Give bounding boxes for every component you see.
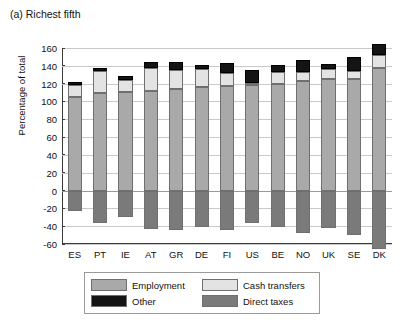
bar-segment-employment xyxy=(195,87,209,190)
legend-swatch xyxy=(202,295,238,307)
plot-area: 160140120100806040200-20-40-60 ESPTIEATG… xyxy=(62,48,392,244)
bar-segment-other xyxy=(118,76,132,80)
legend-item-direct-taxes: Direct taxes xyxy=(202,295,313,307)
bar-group-fi: FI xyxy=(220,48,234,244)
page-title: (a) Richest fifth xyxy=(10,8,81,20)
bar-segment-other xyxy=(296,60,310,72)
x-tick-label-at: AT xyxy=(145,249,156,260)
bar-group-ie: IE xyxy=(118,48,132,244)
y-tick-label: -20 xyxy=(17,203,62,214)
bar-segment-other xyxy=(245,70,259,82)
bar-segment-other xyxy=(321,64,335,69)
x-tick-label-de: DE xyxy=(195,249,208,260)
y-tick-label: 160 xyxy=(17,43,62,54)
bar-segment-direct-taxes xyxy=(271,191,285,228)
bar-segment-employment xyxy=(271,84,285,191)
bar-segment-cash-transfers xyxy=(372,55,386,67)
bar-segment-other xyxy=(68,82,82,86)
legend-label: Direct taxes xyxy=(243,296,293,307)
bar-segment-cash-transfers xyxy=(245,83,259,86)
bar-segment-employment xyxy=(118,92,132,191)
bar-group-es: ES xyxy=(68,48,82,244)
bar-segment-employment xyxy=(245,85,259,190)
legend-label: Other xyxy=(132,296,156,307)
bar-segment-direct-taxes xyxy=(372,191,386,250)
chart-legend: EmploymentCash transfersOtherDirect taxe… xyxy=(84,272,320,314)
bar-segment-direct-taxes xyxy=(144,191,158,229)
x-tick-label-pt: PT xyxy=(94,249,106,260)
bar-segment-employment xyxy=(321,79,335,190)
y-tick-label: 60 xyxy=(17,132,62,143)
bar-segment-direct-taxes xyxy=(347,191,361,236)
y-tick-label: 40 xyxy=(17,149,62,160)
y-tick-label: 80 xyxy=(17,114,62,125)
bar-segment-employment xyxy=(144,91,158,191)
bar-segment-employment xyxy=(68,97,82,191)
bar-segment-direct-taxes xyxy=(118,191,132,218)
bar-segment-cash-transfers xyxy=(195,69,209,87)
legend-label: Cash transfers xyxy=(243,280,305,291)
bar-group-gr: GR xyxy=(169,48,183,244)
bar-group-de: DE xyxy=(195,48,209,244)
bar-group-us: US xyxy=(245,48,259,244)
bar-segment-employment xyxy=(372,68,386,191)
bar-segment-cash-transfers xyxy=(321,69,335,79)
bar-segment-direct-taxes xyxy=(93,191,107,224)
bar-group-uk: UK xyxy=(321,48,335,244)
legend-item-cash-transfers: Cash transfers xyxy=(202,279,313,291)
x-tick-label-fi: FI xyxy=(223,249,231,260)
y-tick-label: 120 xyxy=(17,78,62,89)
bar-segment-other xyxy=(347,57,361,71)
bar-segment-other xyxy=(195,65,209,69)
x-tick-label-no: NO xyxy=(296,249,310,260)
x-tick-label-ie: IE xyxy=(121,249,130,260)
bar-segment-employment xyxy=(220,86,234,190)
x-tick-label-be: BE xyxy=(271,249,284,260)
bar-segment-other xyxy=(169,62,183,70)
bar-segment-other xyxy=(372,44,386,56)
bar-group-se: SE xyxy=(347,48,361,244)
bar-group-dk: DK xyxy=(372,48,386,244)
x-tick-label-gr: GR xyxy=(169,249,183,260)
legend-swatch xyxy=(91,295,127,307)
y-tick-label: -40 xyxy=(17,221,62,232)
bar-segment-employment xyxy=(296,81,310,191)
bar-segment-cash-transfers xyxy=(271,72,285,84)
bar-segment-cash-transfers xyxy=(220,73,234,86)
bar-segment-other xyxy=(144,62,158,68)
y-tick-label: 0 xyxy=(17,185,62,196)
x-tick-label-dk: DK xyxy=(373,249,386,260)
legend-swatch xyxy=(91,279,127,291)
bar-segment-direct-taxes xyxy=(245,191,259,224)
bar-segment-cash-transfers xyxy=(93,71,107,92)
legend-label: Employment xyxy=(132,280,185,291)
y-tick-label: 100 xyxy=(17,96,62,107)
legend-item-employment: Employment xyxy=(91,279,202,291)
x-tick-label-se: SE xyxy=(348,249,361,260)
bar-segment-other xyxy=(93,68,107,71)
bar-segment-employment xyxy=(347,79,361,190)
bar-segment-direct-taxes xyxy=(220,191,234,230)
legend-item-other: Other xyxy=(91,295,202,307)
bar-group-no: NO xyxy=(296,48,310,244)
bar-series-group: ESPTIEATGRDEFIUSBENOUKSEDK xyxy=(62,48,392,244)
bar-segment-cash-transfers xyxy=(118,80,132,92)
bar-segment-direct-taxes xyxy=(296,191,310,234)
bar-segment-direct-taxes xyxy=(195,191,209,228)
chart-figure: (a) Richest fifth Percentage of total 16… xyxy=(0,0,402,326)
y-tick-label: 20 xyxy=(17,167,62,178)
bar-segment-cash-transfers xyxy=(68,85,82,97)
bar-segment-employment xyxy=(93,93,107,191)
bar-segment-other xyxy=(271,65,285,72)
legend-swatch xyxy=(202,279,238,291)
x-tick-label-uk: UK xyxy=(322,249,335,260)
bar-group-at: AT xyxy=(144,48,158,244)
bar-segment-cash-transfers xyxy=(169,70,183,89)
x-tick-label-es: ES xyxy=(68,249,81,260)
bar-group-pt: PT xyxy=(93,48,107,244)
x-tick-label-us: US xyxy=(246,249,259,260)
bar-segment-direct-taxes xyxy=(321,191,335,228)
bar-segment-other xyxy=(220,63,234,73)
gridline xyxy=(62,244,392,245)
bar-segment-direct-taxes xyxy=(169,191,183,230)
